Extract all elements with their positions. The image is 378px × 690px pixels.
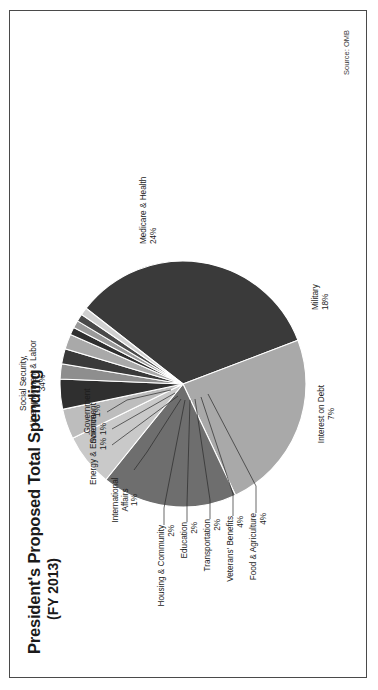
label-food-agriculture-line1: Food & Agriculture [249,513,258,580]
label-housing-community-pct: 2% [167,525,177,645]
label-food-agriculture: Food & Agriculture 4% [249,513,268,613]
label-veterans-benefits-line1: Veterans' Benefits [226,516,235,582]
label-medicare-health: Medicare & Health 24% [139,124,158,244]
label-interest-on-debt-pct: 7% [327,370,337,458]
label-military-line1: Military [311,284,320,310]
label-international-affairs-line2: Affairs [121,488,130,511]
label-government: Government 1% [83,378,102,444]
label-veterans-benefits-pct: 4% [236,516,246,613]
label-social-security-line1: Social Security, [19,355,28,411]
label-social-security: Social Security, Unemployment & Labor 34… [19,318,48,448]
label-interest-on-debt-line1: Interest on Debt [317,385,326,443]
label-government-pct: 1% [93,378,103,444]
label-military-pct: 18% [321,230,331,310]
label-education-line1: Education [180,522,189,558]
label-food-agriculture-pct: 4% [259,513,269,613]
label-housing-community-line1: Housing & Community [157,525,166,606]
label-education-pct: 2% [190,522,200,613]
label-transportation-line1: Transportation [203,519,212,572]
label-transportation: Transportation 2% [203,519,222,613]
label-medicare-health-pct: 24% [149,124,159,244]
label-military: Military 18% [311,230,330,310]
label-international-affairs: International Affairs 1% [111,470,140,530]
source-note: Source: OMB [342,30,351,75]
label-international-affairs-line1: International [111,477,120,522]
label-medicare-health-line1: Medicare & Health [139,177,148,244]
label-interest-on-debt: Interest on Debt 7% [317,370,336,458]
label-social-security-pct: 34% [38,318,48,448]
page-frame: President's Proposed Total Spending (FY … [9,10,367,678]
label-international-affairs-pct: 1% [130,470,140,530]
label-social-security-line2: Unemployment & Labor [29,340,38,426]
label-housing-community: Housing & Community 2% [157,525,176,645]
label-transportation-pct: 2% [213,519,223,613]
rotated-figure-container: President's Proposed Total Spending (FY … [11,12,365,676]
label-education: Education 2% [180,522,199,613]
label-government-line1: Government [83,388,92,433]
label-veterans-benefits: Veterans' Benefits 4% [226,516,245,613]
pie-chart-figure: President's Proposed Total Spending (FY … [11,12,365,676]
